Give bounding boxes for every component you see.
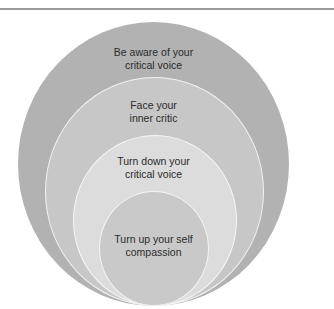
label-face-critic-line-1: Face your	[0, 99, 307, 112]
label-be-aware: Be aware of your critical voice	[0, 46, 307, 72]
label-face-critic-line-2: inner critic	[0, 112, 307, 125]
label-self-compassion-line-1: Turn up your self	[0, 233, 307, 246]
label-turn-down: Turn down your critical voice	[0, 155, 307, 181]
label-be-aware-line-2: critical voice	[0, 59, 307, 72]
top-divider-rule	[0, 8, 334, 10]
label-face-critic: Face your inner critic	[0, 99, 307, 125]
label-turn-down-line-1: Turn down your	[0, 155, 307, 168]
label-be-aware-line-1: Be aware of your	[0, 46, 307, 59]
label-self-compassion: Turn up your self compassion	[0, 233, 307, 259]
label-turn-down-line-2: critical voice	[0, 168, 307, 181]
label-self-compassion-line-2: compassion	[0, 246, 307, 259]
